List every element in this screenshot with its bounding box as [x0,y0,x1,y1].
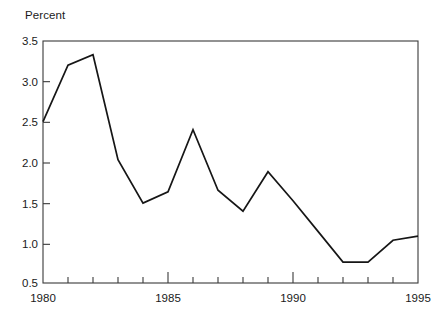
data-series-percent [43,55,418,262]
x-axis-label-1995: 1995 [395,292,439,304]
y-axis-label-1.0: 1.0 [4,238,38,250]
x-axis-label-1980: 1980 [20,292,66,304]
x-axis-label-1985: 1985 [145,292,191,304]
x-axis-ticks [68,272,393,283]
y-axis-label-0.5: 0.5 [4,277,38,289]
y-axis-ticks [43,82,50,245]
y-axis-label-2.0: 2.0 [4,157,38,169]
y-axis-label-2.5: 2.5 [4,116,38,128]
line-chart: Percent [0,0,439,328]
y-axis-label-1.5: 1.5 [4,198,38,210]
x-axis-label-1990: 1990 [270,292,316,304]
y-axis-label-3.0: 3.0 [4,76,38,88]
y-axis-label-3.5: 3.5 [4,35,38,47]
plot-area [0,0,439,328]
